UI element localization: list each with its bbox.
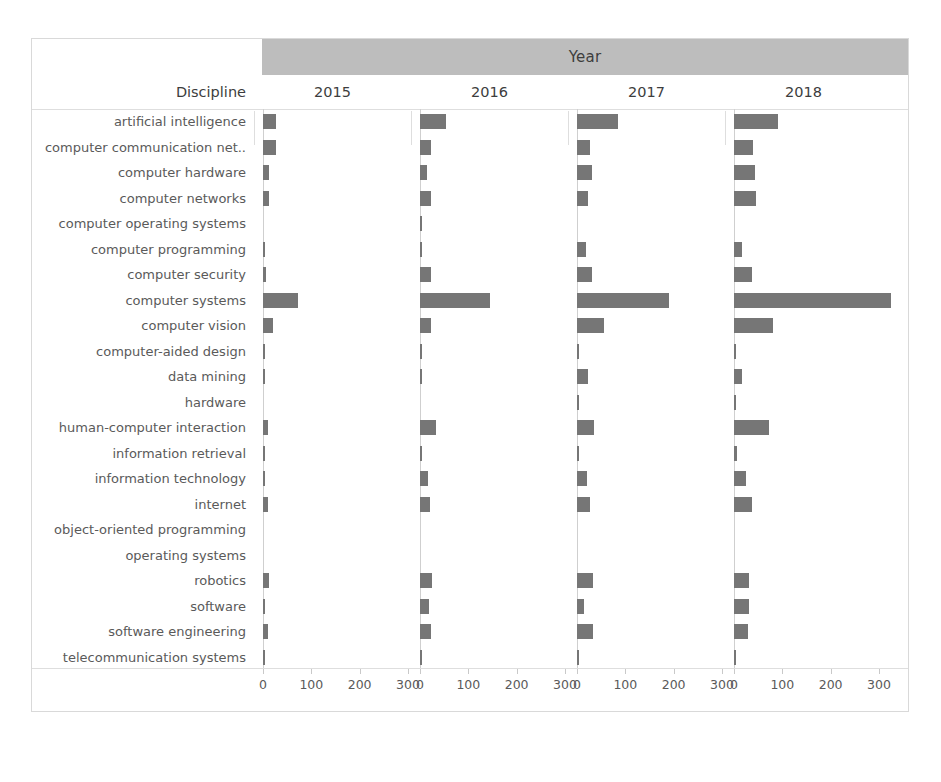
bar-2017[interactable] (577, 318, 604, 333)
bar-2016[interactable] (420, 318, 431, 333)
bar-2018[interactable] (734, 267, 752, 282)
bar-2016[interactable] (420, 624, 431, 639)
chart-row[interactable]: software (32, 594, 908, 620)
chart-row[interactable]: computer programming (32, 237, 908, 263)
bar-2015[interactable] (263, 267, 266, 282)
chart-row[interactable]: telecommunication systems (32, 645, 908, 671)
bar-2015[interactable] (263, 114, 276, 129)
bar-2018[interactable] (734, 165, 755, 180)
chart-row[interactable]: information retrieval (32, 441, 908, 467)
bar-2015[interactable] (263, 165, 269, 180)
chart-row[interactable]: computer hardware (32, 160, 908, 186)
bar-2016[interactable] (420, 140, 431, 155)
bar-2017[interactable] (577, 293, 669, 308)
bar-2016[interactable] (420, 599, 429, 614)
bar-2018[interactable] (734, 420, 769, 435)
bar-2016[interactable] (420, 191, 431, 206)
bar-2015[interactable] (263, 140, 276, 155)
bar-2017[interactable] (577, 420, 594, 435)
bar-2018[interactable] (734, 446, 737, 461)
bar-2018[interactable] (734, 395, 736, 410)
bar-2018[interactable] (734, 140, 753, 155)
bar-2015[interactable] (263, 242, 265, 257)
bar-2015[interactable] (263, 624, 268, 639)
bar-2015[interactable] (263, 293, 298, 308)
bar-2016[interactable] (420, 267, 431, 282)
bar-2015[interactable] (263, 471, 265, 486)
bar-2017[interactable] (577, 344, 579, 359)
bar-2017[interactable] (577, 497, 590, 512)
bar-2016[interactable] (420, 216, 422, 231)
bar-2015[interactable] (263, 446, 265, 461)
year-group-label: Year (569, 48, 602, 66)
bar-2017[interactable] (577, 140, 590, 155)
bar-2017[interactable] (577, 650, 579, 665)
bar-2017[interactable] (577, 191, 588, 206)
bar-2018[interactable] (734, 650, 736, 665)
chart-row[interactable]: human-computer interaction (32, 415, 908, 441)
chart-row[interactable]: artificial intelligence (32, 109, 908, 135)
chart-row[interactable]: computer security (32, 262, 908, 288)
chart-row[interactable]: information technology (32, 466, 908, 492)
bar-2015[interactable] (263, 318, 273, 333)
bar-2018[interactable] (734, 573, 749, 588)
bar-2015[interactable] (263, 497, 268, 512)
group-header-row: Year (32, 39, 908, 75)
bar-2017[interactable] (577, 471, 587, 486)
bar-2016[interactable] (420, 497, 430, 512)
bar-2017[interactable] (577, 599, 584, 614)
bar-2017[interactable] (577, 395, 579, 410)
bar-2017[interactable] (577, 446, 579, 461)
bar-2018[interactable] (734, 242, 742, 257)
bar-2017[interactable] (577, 369, 588, 384)
bar-2018[interactable] (734, 599, 749, 614)
bar-2017[interactable] (577, 242, 586, 257)
tick-mark (734, 669, 735, 674)
bar-2017[interactable] (577, 165, 592, 180)
bar-2015[interactable] (263, 573, 269, 588)
bar-2016[interactable] (420, 114, 446, 129)
bar-2015[interactable] (263, 650, 265, 665)
bar-2015[interactable] (263, 369, 265, 384)
bar-2016[interactable] (420, 344, 422, 359)
chart-row[interactable]: internet (32, 492, 908, 518)
chart-row[interactable]: software engineering (32, 619, 908, 645)
bar-2016[interactable] (420, 650, 422, 665)
bar-2016[interactable] (420, 242, 422, 257)
bar-2018[interactable] (734, 624, 748, 639)
bar-2015[interactable] (263, 420, 268, 435)
chart-row[interactable]: computer communication net.. (32, 135, 908, 161)
bar-2018[interactable] (734, 191, 756, 206)
bar-2015[interactable] (263, 191, 269, 206)
bar-2017[interactable] (577, 114, 618, 129)
chart-row[interactable]: robotics (32, 568, 908, 594)
chart-row[interactable]: operating systems (32, 543, 908, 569)
bar-2017[interactable] (577, 624, 593, 639)
bar-2017[interactable] (577, 573, 593, 588)
bar-2016[interactable] (420, 446, 422, 461)
bar-2016[interactable] (420, 471, 428, 486)
chart-row[interactable]: computer networks (32, 186, 908, 212)
chart-row[interactable]: computer systems (32, 288, 908, 314)
chart-row[interactable]: computer operating systems (32, 211, 908, 237)
bar-2018[interactable] (734, 497, 752, 512)
bar-2018[interactable] (734, 344, 736, 359)
bar-2016[interactable] (420, 165, 427, 180)
bar-2016[interactable] (420, 369, 422, 384)
bar-2015[interactable] (263, 344, 265, 359)
chart-row[interactable]: hardware (32, 390, 908, 416)
bar-2018[interactable] (734, 471, 746, 486)
chart-row[interactable]: data mining (32, 364, 908, 390)
chart-row[interactable]: computer vision (32, 313, 908, 339)
bar-2018[interactable] (734, 114, 778, 129)
bar-2016[interactable] (420, 573, 432, 588)
chart-row[interactable]: object-oriented programming (32, 517, 908, 543)
bar-2016[interactable] (420, 420, 436, 435)
bar-2015[interactable] (263, 599, 265, 614)
bar-2018[interactable] (734, 318, 773, 333)
bar-2016[interactable] (420, 293, 490, 308)
bar-2017[interactable] (577, 267, 592, 282)
bar-2018[interactable] (734, 293, 891, 308)
chart-row[interactable]: computer-aided design (32, 339, 908, 365)
bar-2018[interactable] (734, 369, 742, 384)
